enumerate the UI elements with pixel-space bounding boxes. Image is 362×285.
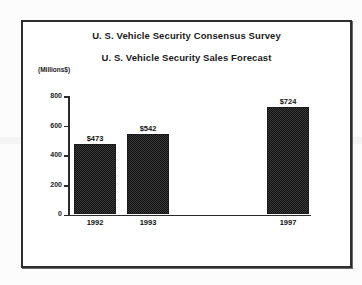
- y-tick-mark: [64, 96, 70, 98]
- bar-value-1997: $724: [267, 97, 309, 106]
- plot-area: 800 600 400 200 0 $473 1992 $542 1993 $7…: [23, 22, 350, 266]
- x-label-1992: 1992: [74, 218, 116, 227]
- bar-value-1993: $542: [127, 124, 169, 133]
- scanned-page: U. S. Vehicle Security Consensus Survey …: [0, 0, 362, 285]
- y-tick-mark: [64, 126, 70, 128]
- y-tick-mark: [64, 215, 70, 217]
- x-axis-line: [68, 215, 311, 217]
- bar-1992: [74, 144, 116, 214]
- bar-1997: [267, 107, 309, 214]
- y-tick-mark: [64, 185, 70, 187]
- y-tick-label-600: 600: [23, 122, 62, 129]
- chart-frame: U. S. Vehicle Security Consensus Survey …: [21, 20, 352, 268]
- bar-value-1992: $473: [74, 134, 116, 143]
- y-tick-label-800: 800: [23, 92, 62, 99]
- y-tick-mark: [64, 155, 70, 157]
- y-tick-label-400: 400: [23, 151, 62, 158]
- y-tick-label-200: 200: [23, 181, 62, 188]
- bar-1993: [127, 134, 169, 214]
- y-tick-label-0: 0: [23, 210, 62, 217]
- x-label-1997: 1997: [267, 218, 309, 227]
- x-label-1993: 1993: [127, 218, 169, 227]
